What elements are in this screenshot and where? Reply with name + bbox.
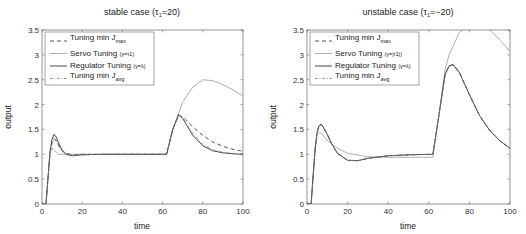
y-tick-label: 1	[35, 150, 40, 159]
y-tick-label: 1.5	[293, 125, 305, 134]
y-tick-label: 1.5	[28, 125, 40, 134]
legend-label: Servo Tuning (γ=τ1)	[70, 49, 134, 58]
y-tick-label: 0	[35, 200, 40, 209]
x-tick-label: 40	[118, 207, 127, 216]
y-tick-label: 0.5	[293, 175, 305, 184]
y-tick-label: 3.5	[293, 26, 305, 35]
y-tick-label: 0.5	[28, 175, 40, 184]
y-tick-label: 2.5	[293, 76, 305, 85]
y-tick-label: 3.5	[28, 26, 40, 35]
x-tick-label: 0	[305, 207, 310, 216]
legend: Tuning min JmaxServo Tuning (γ=|τ1|)Regu…	[310, 32, 419, 85]
y-axis-label: output	[268, 105, 278, 129]
chart-title: unstable case (τ1=−20)	[362, 7, 453, 18]
x-axis-label: time	[134, 221, 150, 231]
y-tick-label: 0	[300, 200, 305, 209]
stable-case-chart: stable case (τ1=20) 02040608010000.511.5…	[3, 7, 250, 231]
x-tick-label: 80	[198, 207, 207, 216]
x-tick-label: 80	[465, 207, 474, 216]
x-tick-label: 100	[236, 207, 250, 216]
y-tick-label: 2	[35, 101, 40, 110]
unstable-case-chart: unstable case (τ1=−20) 02040608010000.51…	[268, 7, 517, 231]
figure: stable case (τ1=20) 02040608010000.511.5…	[0, 0, 526, 234]
y-tick-label: 1	[300, 150, 305, 159]
chart-title: stable case (τ1=20)	[104, 7, 180, 18]
legend-label: Servo Tuning (γ=|τ1|)	[335, 49, 402, 58]
x-tick-label: 20	[78, 207, 87, 216]
legend-label: Regulator Tuning (γ=λ)	[70, 61, 146, 70]
x-tick-label: 60	[158, 207, 167, 216]
x-axis-label: time	[400, 221, 416, 231]
legend: Tuning min JmaxServo Tuning (γ=τ1)Regula…	[45, 32, 154, 85]
x-tick-label: 0	[40, 207, 45, 216]
x-tick-label: 60	[424, 207, 433, 216]
y-tick-label: 3	[35, 51, 40, 60]
y-axis-label: output	[3, 105, 13, 129]
y-tick-label: 3	[300, 51, 305, 60]
x-tick-label: 20	[343, 207, 352, 216]
y-tick-label: 2.5	[28, 76, 40, 85]
x-tick-label: 40	[384, 207, 393, 216]
x-tick-label: 100	[503, 207, 517, 216]
legend-label: Regulator Tuning (γ=λ)	[335, 61, 411, 70]
y-tick-label: 2	[300, 101, 305, 110]
